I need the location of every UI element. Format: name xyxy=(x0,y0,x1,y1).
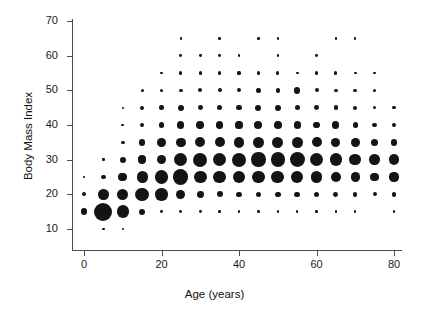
data-bubble xyxy=(218,88,222,92)
x-tick-mark xyxy=(394,251,395,256)
y-axis-title: Body Mass Index xyxy=(22,56,34,216)
data-bubble xyxy=(334,89,338,93)
data-bubble xyxy=(332,121,339,128)
data-bubble xyxy=(392,106,396,110)
data-bubble xyxy=(213,153,227,167)
data-bubble xyxy=(137,171,148,182)
data-bubble xyxy=(118,173,127,182)
data-bubble xyxy=(121,124,124,127)
data-bubble xyxy=(271,171,284,184)
data-bubble xyxy=(257,37,259,39)
data-bubble xyxy=(179,71,182,74)
data-bubble xyxy=(351,138,360,147)
data-bubble xyxy=(233,171,245,183)
data-bubble xyxy=(392,123,396,127)
data-bubble xyxy=(277,210,279,212)
data-bubble xyxy=(98,189,108,199)
data-bubble xyxy=(194,171,207,184)
data-bubble xyxy=(353,192,357,196)
data-bubble xyxy=(391,139,398,146)
data-bubble xyxy=(257,210,259,212)
data-bubble xyxy=(216,121,224,129)
data-bubble xyxy=(82,192,86,196)
data-bubble xyxy=(141,89,144,92)
data-bubble xyxy=(215,137,225,147)
y-tick-mark xyxy=(67,90,72,91)
data-bubble xyxy=(176,190,185,199)
data-bubble xyxy=(117,205,129,217)
data-bubble xyxy=(180,37,182,39)
x-tick-label: 40 xyxy=(219,258,259,271)
data-bubble xyxy=(179,89,183,93)
data-bubble xyxy=(369,154,379,164)
data-bubble xyxy=(237,71,240,74)
data-bubble xyxy=(217,105,222,110)
y-tick-mark xyxy=(67,160,72,161)
data-bubble xyxy=(330,153,342,165)
data-bubble xyxy=(353,89,357,93)
data-bubble xyxy=(217,191,223,197)
y-axis-line xyxy=(72,19,73,250)
data-bubble xyxy=(271,152,285,166)
data-bubble xyxy=(256,192,261,197)
data-bubble xyxy=(295,105,300,110)
y-tick-mark xyxy=(67,56,72,57)
plot-area: 020406080 10203040506070 Age (years) Bod… xyxy=(0,0,429,321)
bubble-chart-figure: 020406080 10203040506070 Age (years) Bod… xyxy=(0,0,429,321)
data-bubble xyxy=(140,106,144,110)
data-bubble xyxy=(159,122,165,128)
data-bubble xyxy=(155,170,168,183)
data-bubble xyxy=(232,153,246,167)
data-bubble xyxy=(199,210,202,213)
data-bubble xyxy=(314,192,319,197)
data-bubble xyxy=(173,169,188,184)
data-bubble xyxy=(274,121,282,129)
data-bubble xyxy=(102,228,104,230)
data-bubble xyxy=(238,210,240,212)
data-bubble xyxy=(251,152,265,166)
data-bubble xyxy=(234,137,244,147)
data-bubble xyxy=(392,192,396,196)
data-bubble xyxy=(294,121,301,128)
data-bubble xyxy=(135,188,149,202)
data-bubble xyxy=(218,37,220,39)
data-bubble xyxy=(197,191,204,198)
x-tick-label: 80 xyxy=(374,258,414,271)
data-bubble xyxy=(179,54,182,57)
data-bubble xyxy=(389,172,398,181)
data-bubble xyxy=(139,139,145,145)
data-bubble xyxy=(176,138,186,148)
data-bubble xyxy=(174,153,187,166)
data-points-layer xyxy=(0,0,429,321)
x-tick-mark xyxy=(162,251,163,256)
data-bubble xyxy=(199,71,202,74)
data-bubble xyxy=(157,155,166,164)
data-bubble xyxy=(393,210,396,213)
data-bubble xyxy=(310,153,323,166)
data-bubble xyxy=(314,105,319,110)
data-bubble xyxy=(313,122,320,129)
y-tick-label: 10 xyxy=(28,222,58,235)
data-bubble xyxy=(353,122,358,127)
data-bubble xyxy=(196,121,204,129)
data-bubble xyxy=(349,154,361,166)
data-bubble xyxy=(256,88,260,92)
data-bubble xyxy=(276,88,280,92)
data-bubble xyxy=(331,172,341,182)
data-bubble xyxy=(198,105,203,110)
data-bubble xyxy=(218,210,220,212)
data-bubble xyxy=(373,72,375,74)
x-tick-label: 20 xyxy=(142,258,182,271)
data-bubble xyxy=(290,152,305,167)
data-bubble xyxy=(272,137,283,148)
data-bubble xyxy=(237,88,241,92)
data-bubble xyxy=(122,107,124,109)
data-bubble xyxy=(335,210,337,212)
data-bubble xyxy=(312,137,322,147)
data-bubble xyxy=(370,173,378,181)
data-bubble xyxy=(275,192,281,198)
data-bubble xyxy=(276,71,279,74)
data-bubble xyxy=(373,89,376,92)
data-bubble xyxy=(117,189,128,200)
data-bubble xyxy=(373,106,377,110)
